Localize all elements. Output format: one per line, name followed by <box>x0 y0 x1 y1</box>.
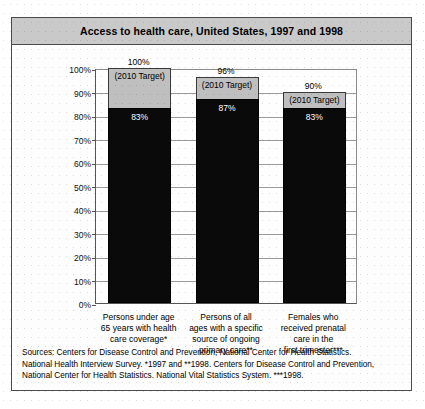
bar-group: (2010 Target)83% <box>283 68 346 303</box>
y-axis-tick-mark <box>92 305 96 306</box>
y-axis-tick-mark <box>92 93 96 94</box>
chart-title-bar: Access to health care, United States, 19… <box>12 18 411 45</box>
y-axis-tick-mark <box>92 211 96 212</box>
bar-actual-value-label: 83% <box>306 112 323 122</box>
y-axis-tick-label: 10% <box>74 277 91 287</box>
bar-target-value-label: 90% <box>282 81 345 91</box>
y-axis-tick-label: 100% <box>69 65 91 75</box>
y-axis-tick-mark <box>92 140 96 141</box>
y-axis-tick-mark <box>92 234 96 235</box>
bar-actual-value-label: 83% <box>131 112 148 122</box>
y-axis-tick-label: 60% <box>74 159 91 169</box>
y-axis-tick-label: 90% <box>74 89 91 99</box>
chart-figure: Access to health care, United States, 19… <box>11 17 412 391</box>
bar-actual-value-label: 87% <box>218 103 235 113</box>
plot-wrapper: 0%10%20%30%40%50%60%70%80%90%100%(2010 T… <box>12 45 411 390</box>
sources-line-3: National Center for Health Statistics. N… <box>22 370 403 381</box>
y-axis-tick-label: 50% <box>74 183 91 193</box>
y-axis-tick-mark <box>92 164 96 165</box>
bar-actual-segment: 83% <box>283 108 346 303</box>
x-axis-category-label: Persons under age65 years with healthcar… <box>95 312 182 345</box>
bar-target-value-label: 100% <box>107 57 170 67</box>
bar-target-caption: (2010 Target) <box>289 95 339 105</box>
bar-group: (2010 Target)83% <box>108 68 171 303</box>
y-axis-tick-label: 70% <box>74 136 91 146</box>
bar-actual-segment: 87% <box>196 99 259 303</box>
y-axis-tick-label: 0% <box>79 300 91 310</box>
y-axis-tick-label: 30% <box>74 230 91 240</box>
y-axis-tick-mark <box>92 70 96 71</box>
bar-target-caption: (2010 Target) <box>114 71 164 81</box>
plot-area: 0%10%20%30%40%50%60%70%80%90%100%(2010 T… <box>95 69 357 304</box>
y-axis-tick-mark <box>92 117 96 118</box>
bar-target-caption: (2010 Target) <box>202 80 252 90</box>
bar-actual-segment: 83% <box>108 108 171 303</box>
sources-line-1: Sources: Centers for Disease Control and… <box>22 347 403 358</box>
sources-note: Sources: Centers for Disease Control and… <box>22 347 403 381</box>
page-title: Access to health care, United States, 19… <box>80 25 343 37</box>
y-axis-tick-label: 20% <box>74 253 91 263</box>
sources-line-2: National Health Interview Survey. *1997 … <box>22 359 403 370</box>
y-axis-tick-mark <box>92 258 96 259</box>
bar-group: (2010 Target)87% <box>196 68 259 303</box>
y-axis-tick-label: 40% <box>74 206 91 216</box>
bar-target-value-label: 96% <box>195 66 258 76</box>
y-axis-tick-mark <box>92 187 96 188</box>
y-axis-tick-label: 80% <box>74 112 91 122</box>
y-axis-tick-mark <box>92 281 96 282</box>
